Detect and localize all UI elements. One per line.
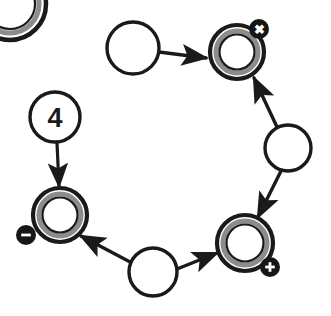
node-plain-bottom[interactable] [129, 248, 177, 296]
edge-top-to-x [159, 52, 206, 58]
node-numbered-4[interactable]: 4 [30, 92, 80, 142]
node-corner-ring[interactable] [0, 0, 46, 40]
node-plain-top[interactable] [107, 22, 159, 74]
plus-icon-vertical [269, 262, 272, 272]
node-plain-right-circle [265, 125, 311, 171]
edge-right-to-plus [258, 171, 281, 217]
minus-badge[interactable] [16, 225, 36, 245]
node-plain-top-circle [107, 22, 159, 74]
edge-bottom-to-plus [177, 253, 217, 269]
minus-icon [21, 234, 31, 237]
node-plain-right[interactable] [265, 125, 311, 171]
close-badge[interactable]: ✖ [249, 19, 269, 39]
edge-four-to-minus [57, 143, 59, 186]
diagram-canvas: ✖ [0, 0, 331, 316]
edge-right-to-x [254, 78, 277, 127]
edge-bottom-to-minus [81, 236, 132, 263]
node-ring-minus[interactable] [33, 188, 87, 242]
node-ring-plus-inner [227, 225, 264, 262]
diagram-svg: ✖ [0, 0, 331, 316]
close-icon: ✖ [254, 22, 265, 37]
node-plain-bottom-circle [129, 248, 177, 296]
node-ring-minus-inner [43, 198, 78, 233]
node-numbered-4-label: 4 [47, 103, 62, 133]
plus-badge[interactable] [260, 257, 280, 277]
node-ring-x-inner [220, 35, 255, 70]
